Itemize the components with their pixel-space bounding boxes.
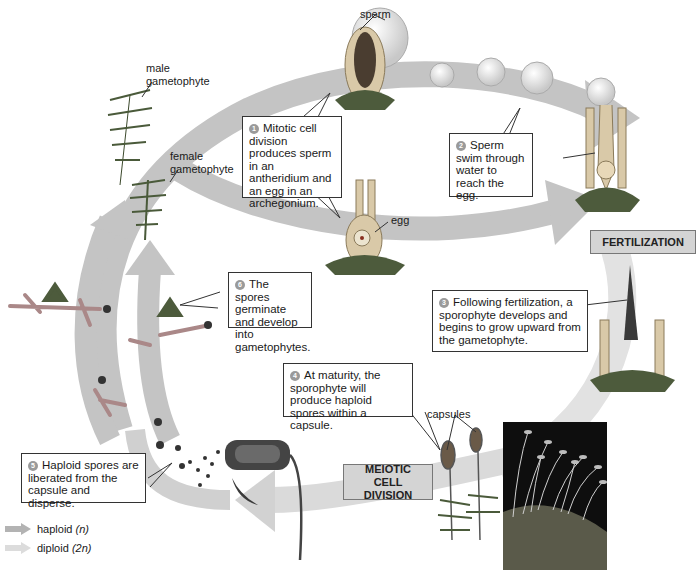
diploid-arrow-icon xyxy=(5,542,31,554)
step-6-callout: 6The spores germinate and develop into g… xyxy=(228,272,312,328)
sperm-label: sperm xyxy=(360,8,391,21)
moss-photograph xyxy=(503,422,607,570)
step-2-text: Sperm swim through water to reach the eg… xyxy=(456,139,524,201)
step-5-callout: 5Haploid spores are liberated from the c… xyxy=(21,453,146,503)
sperm-bubble xyxy=(521,62,553,94)
fertilization-stage: FERTILIZATION xyxy=(590,230,696,254)
step-4-callout: 4At maturity, the sporophyte will produc… xyxy=(283,363,413,417)
legend-diploid-label: diploid xyxy=(37,542,69,554)
step-number-badge: 4 xyxy=(290,371,300,381)
step-number-badge: 6 xyxy=(235,280,245,290)
step-number-badge: 5 xyxy=(28,461,38,471)
step-1-callout: 1Mitotic cell division produces sperm in… xyxy=(242,116,342,198)
step-5-text: Haploid spores are liberated from the ca… xyxy=(28,459,139,509)
legend-diploid-notation: (2n) xyxy=(72,542,92,554)
step-number-badge: 3 xyxy=(439,298,449,308)
step-2-callout: 2Sperm swim through water to reach the e… xyxy=(449,133,533,197)
step-number-badge: 1 xyxy=(249,124,259,134)
step-number-badge: 2 xyxy=(456,141,466,151)
meiotic-cell-division-stage: MEIOTIC CELL DIVISION xyxy=(343,464,433,500)
sperm-bubble xyxy=(430,63,454,87)
step-6-text: The spores germinate and develop into ga… xyxy=(235,278,310,353)
capsules-label: capsules xyxy=(427,408,470,421)
legend-haploid-label: haploid xyxy=(37,523,72,535)
sperm-bubble xyxy=(477,58,505,86)
step-3-callout: 3Following fertilization, a sporophyte d… xyxy=(432,290,588,352)
step-3-text: Following fertilization, a sporophyte de… xyxy=(439,296,581,346)
male-gametophyte-label: male gametophyte xyxy=(146,62,226,88)
legend-diploid: diploid (2n) xyxy=(5,542,91,554)
legend-haploid-notation: (n) xyxy=(76,523,89,535)
step-1-text: Mitotic cell division produces sperm in … xyxy=(249,122,331,209)
female-gametophyte-label: female gametophyte xyxy=(170,150,250,176)
egg-label: egg xyxy=(391,214,409,227)
haploid-arrow-icon xyxy=(5,523,31,535)
male-gametophyte-illustration xyxy=(108,90,152,185)
antheridium-illustration xyxy=(335,8,408,110)
legend-haploid: haploid (n) xyxy=(5,523,89,535)
